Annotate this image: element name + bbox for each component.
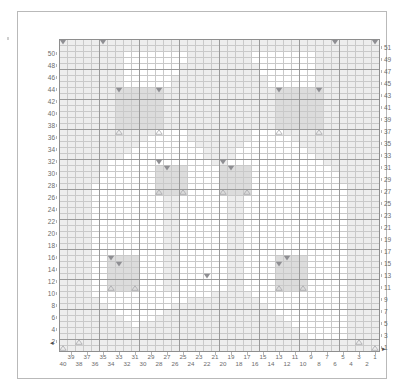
bottom-axis-tick <box>343 352 344 355</box>
left-row-label: 20 <box>39 231 55 237</box>
bottom-axis-tick <box>359 352 360 355</box>
right-row-label: 13 <box>384 273 399 279</box>
chart-cell <box>59 345 379 351</box>
left-axis-tick <box>56 220 57 223</box>
right-row-label: 39 <box>384 117 399 123</box>
filled-down-triangle-icon <box>203 273 211 279</box>
right-row-label: 9 <box>384 297 399 303</box>
right-row-label: 7 <box>384 309 399 315</box>
right-row-label: 51 <box>384 45 399 51</box>
left-axis-tick <box>56 340 57 343</box>
row-start-marker-right: ▸ <box>382 345 386 352</box>
right-row-label: 33 <box>384 153 399 159</box>
right-row-label: 11 <box>384 285 399 291</box>
bottom-axis-tick <box>263 352 264 355</box>
left-row-label: 38 <box>39 123 55 129</box>
left-row-label: 26 <box>39 195 55 201</box>
left-row-label: 48 <box>39 63 55 69</box>
margin-speck <box>7 37 9 40</box>
right-row-label: 15 <box>384 261 399 267</box>
left-axis-tick <box>56 196 57 199</box>
right-row-label: 35 <box>384 141 399 147</box>
right-row-label: 29 <box>384 177 399 183</box>
left-axis-tick <box>56 208 57 211</box>
bottom-axis-tick <box>183 352 184 355</box>
left-row-label: 10 <box>39 291 55 297</box>
left-axis-tick <box>56 316 57 319</box>
stitch-label-even: 4 <box>345 361 357 367</box>
row-start-marker-left: ◂ <box>50 339 54 346</box>
right-axis-tick <box>381 334 382 337</box>
left-row-label: 6 <box>39 315 55 321</box>
left-row-label: 22 <box>39 219 55 225</box>
right-row-label: 41 <box>384 105 399 111</box>
left-row-label: 24 <box>39 207 55 213</box>
knitting-chart-grid[interactable] <box>59 39 379 351</box>
stitch-label-even: 32 <box>121 361 133 367</box>
stitch-label-even: 38 <box>73 361 85 367</box>
right-row-label: 47 <box>384 69 399 75</box>
left-row-label: 14 <box>39 267 55 273</box>
stitch-label-even: 24 <box>185 361 197 367</box>
left-row-label: 12 <box>39 279 55 285</box>
right-axis-tick <box>381 202 382 205</box>
left-axis-tick <box>56 76 57 79</box>
filled-down-triangle-icon <box>107 255 115 261</box>
bottom-axis-tick <box>167 352 168 355</box>
right-row-label: 21 <box>384 225 399 231</box>
bottom-axis-tick <box>327 352 328 355</box>
right-axis-tick <box>381 286 382 289</box>
open-up-triangle-icon <box>275 129 283 135</box>
filled-down-triangle-icon <box>219 159 227 165</box>
chart-page: 2468101214161820222426283032343638404244… <box>0 0 399 392</box>
left-row-label: 16 <box>39 255 55 261</box>
right-row-label: 1 <box>384 345 399 351</box>
filled-down-triangle-icon <box>59 39 67 45</box>
stitch-label-even: 6 <box>329 361 341 367</box>
bottom-axis-tick <box>279 352 280 355</box>
stitch-label-even: 14 <box>265 361 277 367</box>
right-axis-tick <box>381 142 382 145</box>
stitch-label-even: 22 <box>201 361 213 367</box>
left-row-label: 46 <box>39 75 55 81</box>
filled-down-triangle-icon <box>315 87 323 93</box>
right-axis-tick <box>381 154 382 157</box>
bottom-axis-tick <box>375 352 376 355</box>
right-axis-tick <box>381 238 382 241</box>
left-row-label: 50 <box>39 51 55 57</box>
right-row-label: 19 <box>384 237 399 243</box>
left-axis-tick <box>56 100 57 103</box>
right-axis-tick <box>381 274 382 277</box>
right-axis-tick <box>381 310 382 313</box>
left-axis-tick <box>56 328 57 331</box>
filled-down-triangle-icon <box>275 87 283 93</box>
left-row-label: 44 <box>39 87 55 93</box>
left-row-label: 18 <box>39 243 55 249</box>
open-up-triangle-icon <box>275 285 283 291</box>
stitch-label-even: 30 <box>137 361 149 367</box>
stitch-label-even: 8 <box>313 361 325 367</box>
left-axis-tick <box>56 232 57 235</box>
filled-down-triangle-icon <box>155 159 163 165</box>
open-up-triangle-icon <box>155 189 163 195</box>
left-row-label: 4 <box>39 327 55 333</box>
right-row-label: 43 <box>384 93 399 99</box>
filled-down-triangle-icon <box>115 261 123 267</box>
right-row-label: 17 <box>384 249 399 255</box>
left-row-label: 40 <box>39 111 55 117</box>
chart-cells <box>59 39 379 351</box>
left-axis-tick <box>56 148 57 151</box>
right-axis-tick <box>381 58 382 61</box>
left-axis-tick <box>56 268 57 271</box>
stitch-label-even: 36 <box>89 361 101 367</box>
open-up-triangle-icon <box>355 339 363 345</box>
left-axis-tick <box>56 88 57 91</box>
left-row-label: 34 <box>39 147 55 153</box>
stitch-label-even: 16 <box>249 361 261 367</box>
right-axis-tick <box>381 118 382 121</box>
filled-down-triangle-icon <box>331 39 339 45</box>
right-row-label: 23 <box>384 213 399 219</box>
filled-down-triangle-icon <box>275 261 283 267</box>
open-up-triangle-icon <box>315 129 323 135</box>
filled-down-triangle-icon <box>227 165 235 171</box>
